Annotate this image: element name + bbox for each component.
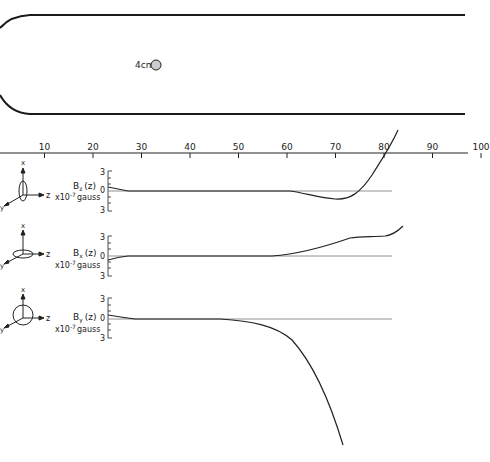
tick-zero: 0 <box>100 186 105 195</box>
by-label: By(z) <box>73 312 97 324</box>
z-tick-label: 100 <box>472 142 489 152</box>
probe-circle <box>151 60 161 70</box>
bx-curve <box>108 226 403 260</box>
axes-icon <box>4 230 44 264</box>
svg-text:3: 3 <box>100 272 105 281</box>
svg-text:y: y <box>0 326 4 334</box>
svg-text:x: x <box>21 222 25 230</box>
svg-text:0: 0 <box>100 314 105 323</box>
z-tick-label: 80 <box>378 142 390 152</box>
z-tick-label: 70 <box>330 142 342 152</box>
bx-unit: x10-7gauss <box>55 259 100 270</box>
bz-label: Bz(z) <box>73 181 96 192</box>
axes-icon <box>4 294 44 328</box>
z-tick-label: 30 <box>136 142 148 152</box>
bz-curve <box>108 130 398 199</box>
panel-bx: x z y Bx(z) x10-7gauss 3 0 3 <box>0 222 403 281</box>
z-tick-label: 40 <box>184 142 196 152</box>
svg-text:z: z <box>46 314 50 323</box>
probe-marker: 4cm <box>135 60 161 70</box>
axis-label-y: y <box>0 204 4 212</box>
svg-text:0: 0 <box>100 252 105 261</box>
axis-label-z: z <box>46 191 50 200</box>
tick-bottom: 3 <box>100 206 105 215</box>
bz-unit: x10-7gauss <box>55 191 100 202</box>
z-tick-label: 10 <box>39 142 51 152</box>
by-curve <box>108 315 343 445</box>
panel-by: x z y By(z) x10-7gauss 3 0 3 <box>0 286 392 445</box>
z-tick-label: 20 <box>87 142 99 152</box>
z-tick-label: 60 <box>281 142 293 152</box>
chamber-outline <box>0 15 465 114</box>
svg-text:3: 3 <box>100 334 105 343</box>
svg-text:z: z <box>46 250 50 259</box>
svg-text:3: 3 <box>100 295 105 304</box>
chamber-top-wall <box>0 15 465 28</box>
chamber-bottom-wall <box>0 95 465 114</box>
svg-text:x: x <box>21 286 25 294</box>
svg-text:3: 3 <box>100 233 105 242</box>
bx-label: Bx(z) <box>73 248 97 259</box>
field-profile-figure: 4cm 102030405060708090100 x z y Bz(z) x1… <box>0 0 490 462</box>
axis-label-x: x <box>21 159 25 167</box>
tick-top: 3 <box>100 168 105 177</box>
by-unit: x10-7gauss <box>55 323 100 334</box>
z-tick-label: 90 <box>427 142 439 152</box>
z-tick-label: 50 <box>233 142 245 152</box>
axes-icon <box>4 168 44 206</box>
z-axis: 102030405060708090100 <box>0 142 490 158</box>
svg-text:y: y <box>0 262 4 270</box>
